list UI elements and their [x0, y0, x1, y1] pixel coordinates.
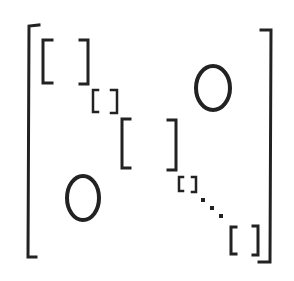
zero-lower-left: [67, 176, 99, 220]
block-diagonal-matrix: [0, 0, 294, 281]
outer-right-bracket: [259, 30, 271, 262]
block-4: [179, 177, 196, 192]
block-5: [231, 226, 258, 255]
diagonal-ellipsis: [201, 198, 223, 218]
block-3: [122, 119, 176, 170]
block-1: [43, 40, 88, 84]
zero-upper-right: [196, 66, 230, 110]
block-2: [93, 90, 117, 113]
outer-left-bracket: [28, 25, 39, 257]
